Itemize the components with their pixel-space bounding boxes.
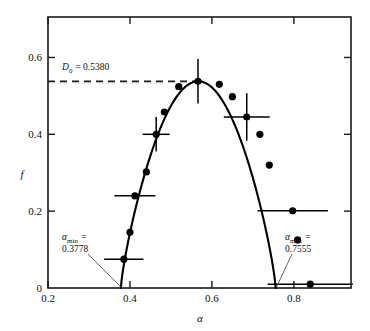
data-point-marker-9 [229, 93, 236, 100]
data-point-marker-2 [131, 192, 138, 199]
x-axis-title: α [197, 312, 203, 324]
data-point-marker-12 [266, 161, 273, 168]
alpha-max-equals: = [305, 232, 310, 242]
data-point-marker-7 [194, 78, 201, 85]
fallpha-spectrum-chart: 0.20.40.60.8 00.20.40.6 α f D0= 0.5380 α… [0, 0, 370, 331]
alpha-min-equals: = [81, 232, 86, 242]
data-point-marker-15 [307, 281, 314, 288]
y-tick-label-1: 0.2 [28, 205, 42, 217]
x-tick-label-1: 0.4 [123, 292, 137, 304]
alpha-max-value: 0.7555 [285, 244, 311, 254]
x-tick-label-2: 0.6 [205, 292, 219, 304]
alpha-min-value: 0.3778 [62, 244, 88, 254]
x-tick-label-0: 0.2 [41, 292, 55, 304]
d0-symbol: D [61, 62, 69, 72]
data-point-marker-8 [216, 81, 223, 88]
data-point-marker-4 [153, 131, 160, 138]
d0-value: = 0.5380 [75, 62, 109, 72]
y-tick-label-0: 0 [37, 282, 43, 294]
chart-background [0, 0, 370, 331]
d0-subscript: 0 [69, 67, 73, 75]
data-point-marker-11 [256, 131, 263, 138]
y-tick-label-2: 0.4 [28, 128, 42, 140]
x-tick-label-3: 0.8 [287, 292, 301, 304]
data-point-marker-13 [289, 207, 296, 214]
data-point-marker-3 [143, 168, 150, 175]
data-point-marker-1 [126, 229, 133, 236]
data-point-marker-0 [120, 256, 127, 263]
data-point-marker-5 [161, 108, 168, 115]
y-tick-label-3: 0.6 [28, 51, 42, 63]
data-point-marker-10 [243, 113, 250, 120]
figure-container: 0.20.40.60.8 00.20.40.6 α f D0= 0.5380 α… [0, 0, 370, 331]
data-point-marker-6 [175, 83, 182, 90]
